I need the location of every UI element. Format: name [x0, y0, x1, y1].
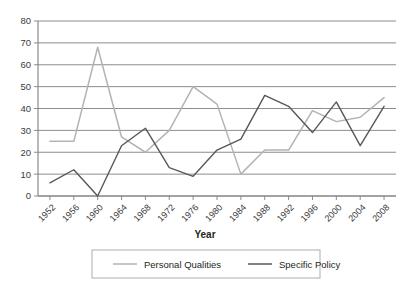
y-axis-tick-label: 50	[20, 81, 31, 92]
y-axis-tick-label: 60	[20, 59, 31, 70]
y-axis-tick-label: 30	[20, 125, 31, 136]
line-chart: 01020304050607080 1952195619601964196819…	[0, 0, 411, 288]
x-axis-title: Year	[194, 229, 215, 240]
y-axis-tick-label: 10	[20, 169, 31, 180]
y-axis-tick-label: 0	[26, 190, 31, 201]
y-axis-tick-label: 40	[20, 103, 31, 114]
chart-canvas: 01020304050607080 1952195619601964196819…	[0, 0, 411, 288]
y-axis-tick-label: 70	[20, 37, 31, 48]
legend-label-0: Personal Qualities	[144, 259, 221, 270]
y-axis-tick-label: 80	[20, 15, 31, 26]
y-axis-tick-label: 20	[20, 147, 31, 158]
y-axis-labels-group: 01020304050607080	[20, 15, 31, 201]
legend-label-1: Specific Policy	[279, 259, 340, 270]
